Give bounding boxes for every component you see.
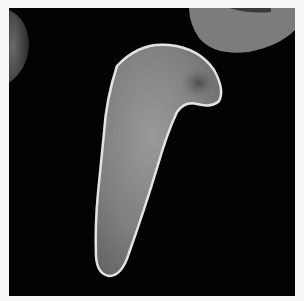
- sickle-cell: [96, 45, 221, 276]
- micrograph-illustration: [9, 8, 295, 296]
- neighbor-cell-top-right: [189, 8, 295, 53]
- image-frame: [0, 0, 304, 301]
- sem-micrograph: [9, 8, 295, 296]
- neighbor-cell-left: [9, 10, 29, 83]
